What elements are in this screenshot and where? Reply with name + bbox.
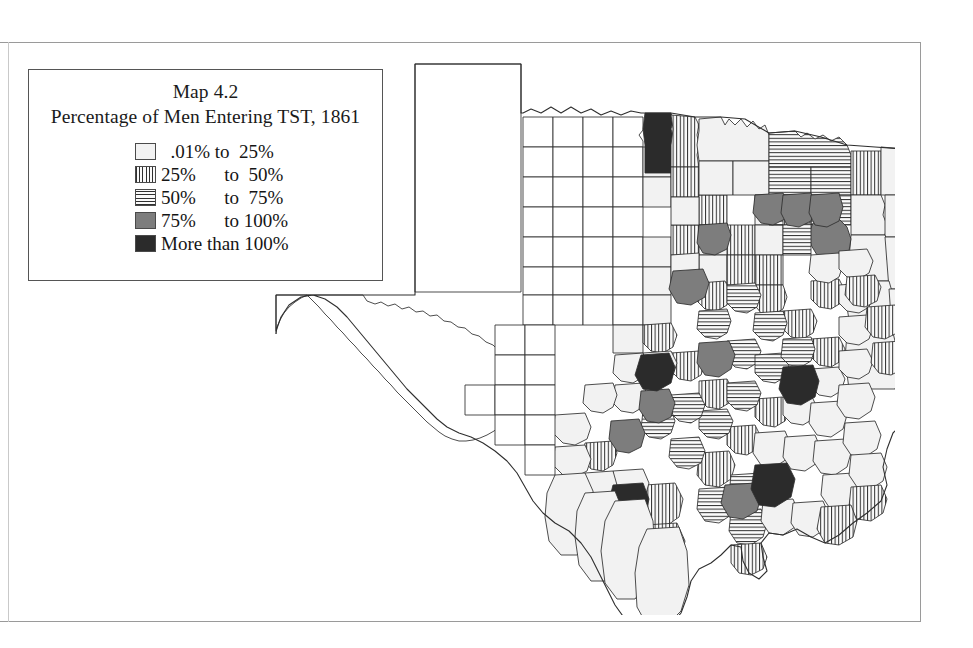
legend-item-2: 25% to 50% <box>135 163 382 186</box>
legend-swatch-dark-gray-icon <box>135 212 156 229</box>
legend-item-1: .01% to 25% <box>135 140 382 163</box>
county-group-northwest <box>523 117 643 325</box>
legend-swatch-light-icon <box>135 143 156 160</box>
legend-item-3: 50% to 75% <box>135 186 382 209</box>
region-far-west <box>276 295 514 441</box>
legend-item-4: 75% to 100% <box>135 209 382 232</box>
legend-rows: .01% to 25% 25% to 50% 50% to 75% 75% to… <box>29 140 382 255</box>
page-canvas: Map 4.2 Percentage of Men Entering TST, … <box>0 0 973 648</box>
legend-title-line-2: Percentage of Men Entering TST, 1861 <box>29 104 382 129</box>
legend-swatch-black-icon <box>135 235 156 252</box>
legend-swatch-horizontal-lines-icon <box>135 189 156 206</box>
legend-label-4: 75% to 100% <box>161 211 288 230</box>
county-black-redriver <box>643 113 673 173</box>
legend-label-1: .01% to 25% <box>161 142 274 161</box>
legend-swatch-vertical-lines-icon <box>135 166 156 183</box>
page-frame-left-rule <box>8 42 9 622</box>
map-legend: Map 4.2 Percentage of Men Entering TST, … <box>28 69 383 281</box>
legend-label-3: 50% to 75% <box>161 188 283 207</box>
region-panhandle <box>415 64 521 292</box>
legend-label-5: More than 100% <box>161 234 289 253</box>
legend-title-line-1: Map 4.2 <box>29 79 382 104</box>
legend-label-2: 25% to 50% <box>161 165 283 184</box>
legend-item-5: More than 100% <box>135 232 382 255</box>
legend-title: Map 4.2 Percentage of Men Entering TST, … <box>29 70 382 130</box>
